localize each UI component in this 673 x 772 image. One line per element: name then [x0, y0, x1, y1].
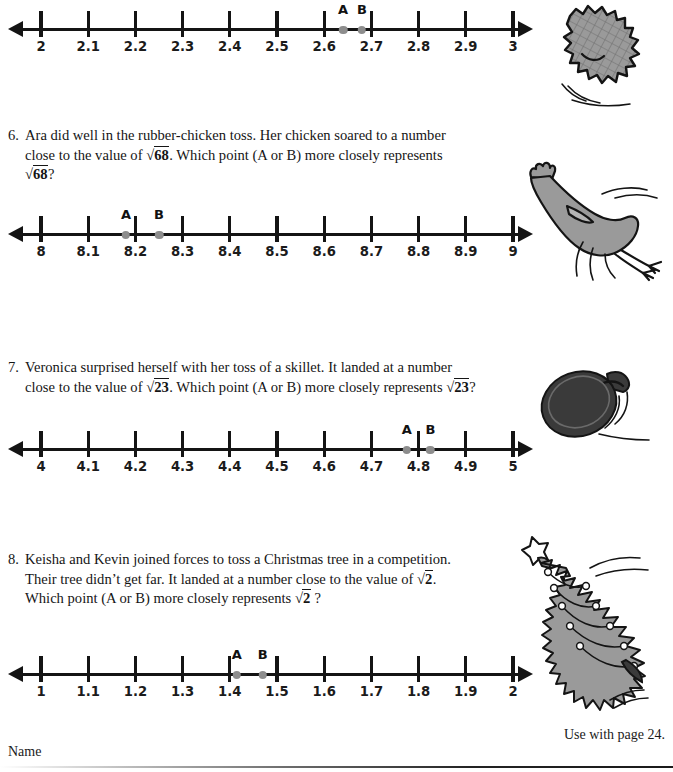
axis-line: [20, 233, 528, 236]
question-8-number: 8.: [8, 550, 19, 570]
tick-mark: [370, 216, 373, 242]
fuzzy-object-svg: [552, 2, 672, 110]
tick-mark: [323, 11, 326, 37]
tick-mark: [228, 11, 231, 37]
question-6-text: Ara did well in the rubber-chicken toss.…: [8, 126, 508, 185]
axis-arrow-right-icon: [518, 441, 533, 457]
fuzzy-object-illustration: [552, 2, 672, 110]
tick-mark: [181, 431, 184, 457]
tick-label: 1.7: [360, 684, 383, 699]
tick-mark: [39, 431, 42, 457]
plotted-point-b[interactable]: [155, 231, 164, 240]
tick-label: 4.7: [360, 459, 383, 474]
tick-label: 2.4: [218, 39, 241, 54]
plotted-point-b[interactable]: [426, 446, 435, 455]
tick-mark: [39, 216, 42, 242]
tick-label: 2.6: [313, 39, 336, 54]
radical-68-inline: √68: [146, 147, 169, 163]
axis-arrow-right-icon: [518, 666, 533, 682]
point-label-a: A: [402, 422, 412, 437]
tick-label: 4.3: [171, 459, 194, 474]
plotted-point-a[interactable]: [233, 671, 242, 680]
question-6-number: 6.: [8, 126, 19, 146]
tick-label: 1.2: [124, 684, 147, 699]
plotted-point-a[interactable]: [339, 26, 348, 35]
tick-label: 4.1: [77, 459, 100, 474]
radical-68-standalone: √68: [25, 166, 48, 182]
axis-line: [20, 28, 528, 31]
tick-mark: [511, 216, 514, 242]
tick-mark: [275, 431, 278, 457]
plotted-point-b[interactable]: [358, 26, 367, 35]
tick-mark: [134, 11, 137, 37]
point-label-b: B: [425, 422, 435, 437]
tick-label: 2.8: [407, 39, 430, 54]
tick-label: 4.2: [124, 459, 147, 474]
tick-mark: [181, 656, 184, 682]
tick-mark: [323, 216, 326, 242]
tick-mark: [181, 11, 184, 37]
point-label-a: A: [338, 2, 348, 17]
radical-2-inline: √2: [417, 571, 433, 587]
question-6: 6. Ara did well in the rubber-chicken to…: [8, 126, 508, 185]
tick-mark: [134, 216, 137, 242]
tick-mark: [370, 11, 373, 37]
tick-mark: [323, 656, 326, 682]
question-6-question-mark: ?: [48, 166, 54, 182]
tick-label: 8.4: [218, 244, 241, 259]
plotted-point-b[interactable]: [259, 671, 268, 680]
tick-label: 2.7: [360, 39, 383, 54]
tick-mark: [134, 656, 137, 682]
tick-mark: [464, 216, 467, 242]
tick-mark: [417, 656, 420, 682]
tick-mark: [134, 431, 137, 457]
tick-label: 1.6: [313, 684, 336, 699]
axis-line: [20, 448, 528, 451]
tick-label: 4.8: [407, 459, 430, 474]
tick-label: 2: [36, 39, 45, 54]
tick-label: 2.1: [77, 39, 100, 54]
tick-mark: [87, 656, 90, 682]
point-label-a: A: [232, 647, 242, 662]
tick-mark: [275, 656, 278, 682]
tick-label: 8.1: [77, 244, 100, 259]
axis-arrow-right-icon: [518, 226, 533, 242]
tick-mark: [417, 431, 420, 457]
name-label: Name: [8, 744, 41, 760]
plotted-point-a[interactable]: [122, 231, 131, 240]
tick-label: 9: [508, 244, 517, 259]
tick-label: 4: [36, 459, 45, 474]
tick-mark: [87, 216, 90, 242]
radical-23-standalone: √23: [446, 379, 469, 395]
tick-label: 4.9: [454, 459, 477, 474]
tick-mark: [417, 11, 420, 37]
tick-mark: [228, 216, 231, 242]
tick-label: 2.9: [454, 39, 477, 54]
tick-mark: [511, 11, 514, 37]
numberline-3: 44.14.24.34.44.54.64.74.84.95AB: [0, 420, 560, 480]
tick-label: 8.7: [360, 244, 383, 259]
question-6-line-2: close to the value of √68. Which point (…: [25, 147, 443, 163]
point-label-a: A: [121, 207, 131, 222]
tick-mark: [87, 431, 90, 457]
numberline-4: 11.11.21.31.41.51.61.71.81.92AB: [0, 645, 560, 705]
radical-23-inline: √23: [146, 379, 169, 395]
axis-arrow-right-icon: [518, 21, 533, 37]
plotted-point-a[interactable]: [403, 446, 412, 455]
question-7-number: 7.: [8, 358, 19, 378]
tick-mark: [370, 656, 373, 682]
tick-mark: [228, 431, 231, 457]
tick-mark: [323, 431, 326, 457]
tick-label: 2.3: [171, 39, 194, 54]
tick-label: 2: [508, 684, 517, 699]
point-label-b: B: [357, 2, 367, 17]
question-7-line-1: Veronica surprised herself with her toss…: [25, 359, 452, 375]
tick-mark: [87, 11, 90, 37]
tick-label: 4.5: [265, 459, 288, 474]
tick-label: 1.3: [171, 684, 194, 699]
tick-label: 1.4: [218, 684, 241, 699]
radical-2-standalone: √2: [295, 590, 311, 606]
tick-mark: [464, 656, 467, 682]
tick-label: 8: [36, 244, 45, 259]
tick-mark: [275, 11, 278, 37]
